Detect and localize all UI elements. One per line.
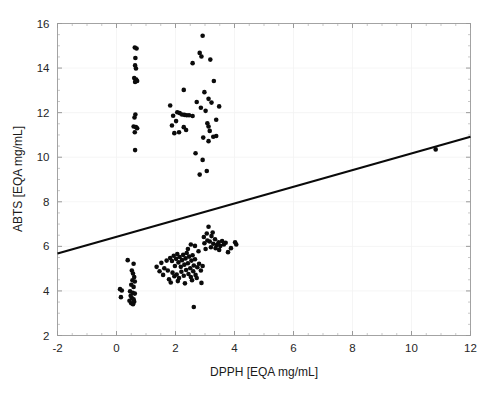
scatter-point — [203, 109, 208, 114]
x-tick-label: 0 — [113, 342, 119, 354]
scatter-point — [134, 46, 139, 51]
scatter-point — [119, 295, 124, 300]
scatter-point — [433, 147, 438, 152]
scatter-point — [191, 305, 196, 310]
x-tick-label: 12 — [464, 342, 477, 354]
scatter-point — [201, 135, 206, 140]
x-tick-label: 8 — [349, 342, 355, 354]
scatter-point — [157, 269, 162, 274]
scatter-point — [204, 169, 209, 174]
scatter-point — [210, 230, 215, 235]
scatter-point — [132, 291, 137, 296]
scatter-point — [168, 280, 173, 285]
scatter-point — [206, 139, 211, 144]
scatter-point — [194, 276, 199, 281]
scatter-point — [181, 88, 186, 93]
scatter-point — [184, 128, 189, 133]
scatter-point — [132, 130, 137, 135]
x-tick-label: 4 — [231, 342, 238, 354]
y-tick-label: 10 — [37, 151, 50, 163]
y-tick-label: 6 — [43, 240, 49, 252]
scatter-point — [120, 288, 125, 293]
scatter-point — [229, 246, 234, 251]
scatter-point — [173, 264, 178, 269]
x-tick-label: 2 — [172, 342, 178, 354]
scatter-point — [125, 258, 130, 263]
scatter-point — [213, 237, 218, 242]
scatter-point — [168, 103, 173, 108]
scatter-point — [212, 79, 217, 84]
scatter-point — [190, 114, 195, 119]
scatter-plot-figure: -2024681012 246810121416 DPPH [EQA mg/mL… — [0, 0, 499, 394]
scatter-point — [196, 249, 201, 254]
scatter-point — [161, 273, 166, 278]
scatter-point — [172, 131, 177, 136]
scatter-point — [208, 57, 213, 62]
scatter-point — [177, 130, 182, 135]
scatter-point — [171, 113, 176, 118]
scatter-point — [214, 117, 219, 122]
scatter-point — [206, 224, 211, 229]
scatter-point — [209, 245, 214, 250]
scatter-point — [206, 97, 211, 102]
scatter-point — [202, 235, 207, 240]
scatter-point — [200, 264, 205, 269]
x-tick-label: 10 — [405, 342, 418, 354]
x-tick-label: 6 — [290, 342, 296, 354]
scatter-point — [154, 265, 159, 270]
scatter-point — [200, 33, 205, 38]
scatter-point — [166, 268, 171, 273]
scatter-point — [193, 151, 198, 156]
scatter-point — [131, 285, 136, 290]
scatter-point — [234, 242, 239, 247]
x-tick-label: -2 — [52, 342, 62, 354]
scatter-point — [135, 126, 140, 131]
scatter-point — [190, 278, 195, 283]
y-tick-label: 2 — [43, 330, 49, 342]
scatter-point — [183, 281, 188, 286]
plot-canvas: -2024681012 246810121416 DPPH [EQA mg/mL… — [0, 0, 499, 394]
y-axis-title: ABTS [EQA mg/mL] — [11, 126, 25, 232]
scatter-point — [211, 134, 216, 139]
scatter-point — [174, 119, 179, 124]
scatter-point — [186, 247, 191, 252]
scatter-point — [170, 123, 175, 128]
scatter-point — [133, 80, 138, 85]
scatter-point — [132, 115, 137, 120]
scatter-point — [217, 104, 222, 109]
scatter-point — [181, 273, 186, 278]
scatter-point — [226, 250, 231, 255]
scatter-point — [134, 66, 139, 71]
scatter-point — [206, 124, 211, 129]
scatter-point — [131, 261, 136, 266]
scatter-point — [170, 259, 175, 264]
scatter-point — [133, 56, 138, 61]
scatter-point — [193, 244, 198, 249]
scatter-point — [205, 238, 210, 243]
scatter-point — [199, 54, 204, 59]
scatter-point — [217, 248, 222, 253]
scatter-point — [190, 253, 195, 258]
scatter-point — [202, 90, 207, 95]
scatter-point — [203, 247, 208, 252]
scatter-point — [197, 172, 202, 177]
y-tick-label: 4 — [43, 285, 50, 297]
scatter-point — [207, 129, 212, 134]
scatter-point — [189, 242, 194, 247]
scatter-point — [184, 268, 189, 273]
scatter-point — [199, 281, 204, 286]
scatter-point — [199, 268, 204, 273]
x-axis-title: DPPH [EQA mg/mL] — [210, 365, 318, 379]
y-tick-label: 8 — [43, 196, 49, 208]
scatter-point — [179, 269, 184, 274]
scatter-point — [200, 158, 205, 163]
y-tick-label: 16 — [37, 18, 50, 30]
scatter-point — [209, 100, 214, 105]
scatter-point — [223, 240, 228, 245]
scatter-point — [133, 148, 138, 153]
scatter-point — [193, 257, 198, 262]
y-tick-label: 14 — [37, 62, 50, 74]
scatter-point — [176, 279, 181, 284]
scatter-point — [204, 231, 209, 236]
y-tick-label: 12 — [37, 107, 50, 119]
